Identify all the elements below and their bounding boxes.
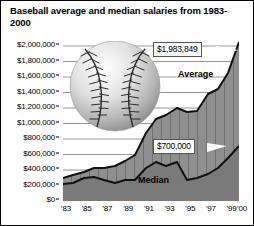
average-value-callout: $1,983,849 xyxy=(153,42,202,57)
y-axis-tick-mark xyxy=(56,44,59,45)
series-label-average: Average xyxy=(178,69,213,79)
baseball-salaries-chart: Baseball average and median salaries fro… xyxy=(0,0,254,226)
median-callout-pointer xyxy=(207,143,227,152)
y-axis-tick-label: $1,600,000 xyxy=(17,71,55,80)
x-axis-tick-label: '93 xyxy=(165,204,175,213)
y-axis-tick-label: $800,000 xyxy=(23,133,55,142)
x-axis-tick-label: '83 xyxy=(61,204,71,213)
y-axis-tick-mark xyxy=(56,106,59,107)
y-axis-tick-mark xyxy=(56,199,59,200)
x-axis-tick-label: '87 xyxy=(102,204,112,213)
y-axis-tick-mark xyxy=(56,75,59,76)
series-label-median: Median xyxy=(138,175,169,185)
median-value-callout: $700,000 xyxy=(153,139,195,154)
x-axis-tick-label: '97 xyxy=(206,204,216,213)
x-axis-tick-label: '89 xyxy=(123,204,133,213)
y-axis-tick-mark xyxy=(56,59,59,60)
y-axis-tick-label: $1,800,000 xyxy=(17,55,55,64)
y-axis-tick-label: $1,200,000 xyxy=(17,102,55,111)
y-axis-tick-mark xyxy=(56,137,59,138)
x-axis-tick-label: '00 xyxy=(237,204,247,213)
y-axis-tick-mark xyxy=(56,121,59,122)
x-axis-tick-label: '85 xyxy=(82,204,92,213)
y-axis-tick-label: $600,000 xyxy=(23,148,55,157)
y-axis-tick-label: $400,000 xyxy=(23,164,55,173)
x-axis-tick-label: '91 xyxy=(144,204,154,213)
y-axis-tick-mark xyxy=(56,168,59,169)
y-axis-tick-label: $2,000,000 xyxy=(17,40,55,49)
y-axis-tick-label: $0 xyxy=(47,195,56,204)
x-axis-tick-label: '95 xyxy=(185,204,195,213)
y-axis-tick-mark xyxy=(56,152,59,153)
average-callout-pointer xyxy=(216,46,238,57)
x-axis: '83'85'87'89'91'93'95'97'99'00 xyxy=(63,204,245,220)
x-axis-tick-label: '99 xyxy=(227,204,237,213)
y-axis-tick-mark xyxy=(56,90,59,91)
y-axis-tick-label: $1,400,000 xyxy=(17,86,55,95)
y-axis-tick-label: $200,000 xyxy=(23,179,55,188)
y-axis: $2,000,000$1,800,000$1,600,000$1,400,000… xyxy=(1,39,59,209)
y-axis-tick-mark xyxy=(56,183,59,184)
y-axis-tick-label: $1,000,000 xyxy=(17,117,55,126)
baseball-icon xyxy=(70,41,160,131)
page-title: Baseball average and median salaries fro… xyxy=(10,5,242,28)
